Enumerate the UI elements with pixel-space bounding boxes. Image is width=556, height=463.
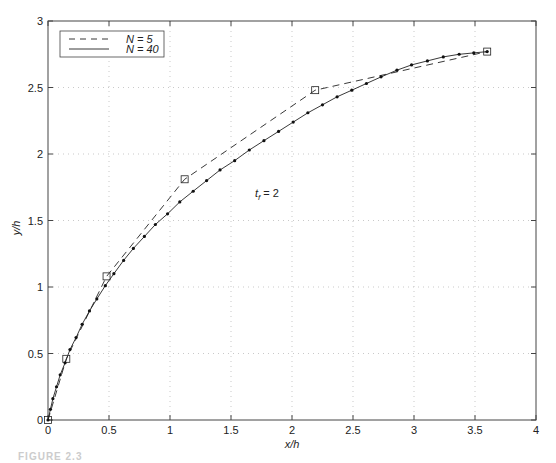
dot-marker: [350, 89, 353, 92]
dot-marker: [95, 297, 98, 300]
dot-marker: [63, 361, 66, 364]
plot-frame: [48, 21, 536, 420]
x-tick-label: 3: [411, 424, 417, 436]
dot-marker: [178, 200, 181, 203]
data-series: [45, 48, 491, 423]
dot-marker: [379, 75, 382, 78]
dot-marker: [292, 120, 295, 123]
annotation-tf: tf = 2: [255, 187, 279, 202]
dot-marker: [154, 223, 157, 226]
dot-marker: [104, 284, 107, 287]
x-tick-label: 3.5: [467, 424, 482, 436]
dot-marker: [218, 168, 221, 171]
dot-marker: [49, 408, 52, 411]
x-tick-label: 0: [45, 424, 51, 436]
dot-marker: [59, 373, 62, 376]
legend-label-n40: N = 40: [126, 43, 160, 55]
dot-marker: [321, 103, 324, 106]
dot-marker: [166, 212, 169, 215]
dot-marker: [365, 82, 368, 85]
dot-marker: [205, 179, 208, 182]
dot-marker: [233, 159, 236, 162]
dot-marker: [122, 259, 125, 262]
dot-marker: [248, 148, 251, 151]
dot-marker: [55, 385, 58, 388]
x-tick-label: 1.5: [223, 424, 238, 436]
y-tick-label: 2.5: [28, 82, 43, 94]
y-tick-label: 1: [37, 281, 43, 293]
dot-marker: [262, 139, 265, 142]
series-line-dashed: [48, 52, 487, 420]
dot-marker: [336, 95, 339, 98]
x-tick-label: 4: [533, 424, 539, 436]
dot-marker: [88, 309, 91, 312]
series-line-solid: [48, 52, 487, 420]
y-tick-label: 0: [37, 414, 43, 426]
dot-marker: [395, 69, 398, 72]
x-tick-label: 1: [167, 424, 173, 436]
x-tick-label: 2.5: [345, 424, 360, 436]
y-tick-label: 2: [37, 148, 43, 160]
dot-marker: [442, 55, 445, 58]
grid-lines: [48, 21, 536, 420]
dot-marker: [486, 50, 489, 53]
dot-marker: [277, 130, 280, 133]
dot-marker: [81, 323, 84, 326]
y-tick-label: 3: [37, 15, 43, 27]
dot-marker: [458, 53, 461, 56]
chart: 00.511.522.533.5400.511.522.53 x/h y/h t…: [0, 0, 556, 463]
dot-marker: [112, 272, 115, 275]
dot-marker: [306, 111, 309, 114]
figure-caption: FIGURE 2.3: [18, 451, 82, 462]
dot-marker: [74, 336, 77, 339]
dot-marker: [472, 51, 475, 54]
x-tick-label: 0.5: [101, 424, 116, 436]
dot-marker: [192, 190, 195, 193]
y-axis-label: y/h: [10, 221, 22, 237]
dot-marker: [143, 235, 146, 238]
dot-marker: [132, 247, 135, 250]
legend: N = 5 N = 40: [60, 31, 164, 57]
dot-marker: [51, 397, 54, 400]
axis-ticks: 00.511.522.533.5400.511.522.53: [28, 15, 539, 436]
dot-marker: [410, 63, 413, 66]
x-axis-label: x/h: [284, 438, 300, 450]
x-tick-label: 2: [289, 424, 295, 436]
y-tick-label: 1.5: [28, 215, 43, 227]
dot-marker: [46, 418, 49, 421]
dot-marker: [68, 348, 71, 351]
y-tick-label: 0.5: [28, 348, 43, 360]
dot-marker: [426, 59, 429, 62]
